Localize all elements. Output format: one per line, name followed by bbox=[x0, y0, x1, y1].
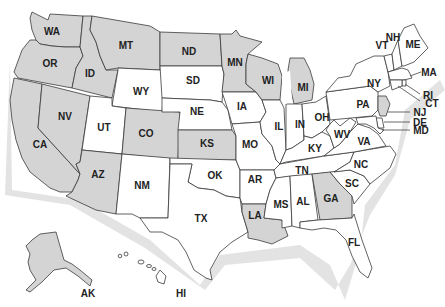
label-AL: AL bbox=[296, 196, 309, 207]
us-states-map: WA OR CA ID NV MT WY UT AZ CO NM ND SD N… bbox=[0, 0, 445, 307]
label-TN: TN bbox=[295, 165, 308, 176]
label-MS: MS bbox=[274, 199, 289, 210]
label-VA: VA bbox=[357, 136, 370, 147]
label-LA: LA bbox=[248, 210, 261, 221]
label-KY: KY bbox=[308, 143, 322, 154]
label-AK: AK bbox=[81, 288, 96, 299]
label-OK: OK bbox=[208, 170, 224, 181]
label-NM: NM bbox=[134, 180, 150, 191]
label-CA: CA bbox=[33, 139, 47, 150]
label-IN: IN bbox=[295, 119, 305, 130]
label-MT: MT bbox=[119, 40, 133, 51]
label-SD: SD bbox=[186, 75, 200, 86]
label-KS: KS bbox=[200, 138, 214, 149]
label-ND: ND bbox=[182, 46, 196, 57]
leader-CT bbox=[398, 86, 420, 101]
label-MD: MD bbox=[413, 125, 429, 136]
label-OR: OR bbox=[43, 58, 59, 69]
state-CT[interactable] bbox=[390, 80, 402, 90]
leader-MA bbox=[410, 72, 421, 76]
label-WI: WI bbox=[262, 75, 274, 86]
label-CT: CT bbox=[425, 98, 438, 109]
state-MI[interactable] bbox=[288, 58, 314, 104]
label-AZ: AZ bbox=[91, 169, 104, 180]
label-IA: IA bbox=[237, 101, 247, 112]
label-OH: OH bbox=[315, 112, 330, 123]
state-FL[interactable] bbox=[300, 214, 372, 278]
label-WY: WY bbox=[133, 86, 149, 97]
label-MO: MO bbox=[242, 139, 258, 150]
label-NC: NC bbox=[354, 159, 368, 170]
label-HI: HI bbox=[176, 288, 186, 299]
label-MN: MN bbox=[227, 57, 243, 68]
state-NJ[interactable] bbox=[378, 96, 390, 116]
label-UT: UT bbox=[97, 122, 110, 133]
label-MA: MA bbox=[421, 67, 437, 78]
label-NV: NV bbox=[58, 111, 72, 122]
state-AK[interactable] bbox=[26, 232, 92, 292]
label-SC: SC bbox=[345, 178, 359, 189]
label-FL: FL bbox=[348, 237, 360, 248]
label-ME: ME bbox=[406, 39, 421, 50]
label-NE: NE bbox=[190, 106, 204, 117]
label-AR: AR bbox=[248, 174, 263, 185]
label-GA: GA bbox=[324, 193, 339, 204]
label-CO: CO bbox=[139, 128, 154, 139]
label-PA: PA bbox=[356, 99, 369, 110]
label-MI: MI bbox=[297, 82, 308, 93]
label-NY: NY bbox=[367, 78, 381, 89]
label-ID: ID bbox=[85, 68, 95, 79]
label-NH: NH bbox=[386, 32, 400, 43]
label-WA: WA bbox=[44, 26, 60, 37]
label-IL: IL bbox=[275, 121, 284, 132]
label-TX: TX bbox=[195, 213, 208, 224]
label-WV: WV bbox=[334, 129, 350, 140]
state-RI[interactable] bbox=[402, 80, 406, 86]
